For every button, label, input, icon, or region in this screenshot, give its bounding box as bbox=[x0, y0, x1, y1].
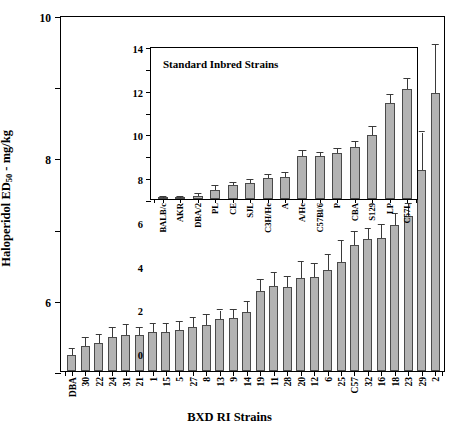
bar-group: C3H/He bbox=[263, 46, 273, 199]
error-bar bbox=[355, 142, 356, 147]
x-axis-tick bbox=[220, 371, 221, 376]
error-bar bbox=[179, 322, 180, 330]
bar-group: DBA/2 bbox=[193, 46, 203, 199]
bar bbox=[269, 286, 278, 371]
bar-group: P bbox=[332, 46, 342, 199]
error-bar-cap bbox=[404, 78, 411, 79]
error-bar bbox=[198, 194, 199, 195]
error-bar bbox=[337, 149, 338, 153]
error-bar bbox=[268, 175, 269, 178]
x-axis-tick-label: C57 bbox=[349, 377, 360, 394]
error-bar-cap bbox=[95, 334, 101, 335]
axis-tick: 2 bbox=[146, 179, 151, 180]
x-axis-tick bbox=[381, 371, 382, 376]
x-axis-tick-label: 15 bbox=[160, 377, 171, 387]
x-axis-tick-label: 32 bbox=[362, 377, 373, 387]
error-bar bbox=[193, 318, 194, 327]
x-axis-tick bbox=[163, 199, 164, 203]
x-axis-tick bbox=[112, 371, 113, 376]
error-bar-cap bbox=[419, 131, 425, 132]
bar bbox=[202, 325, 211, 371]
bar-group: A/He bbox=[297, 46, 307, 199]
x-axis-tick bbox=[250, 199, 251, 203]
x-axis-tick-label: AKR bbox=[175, 203, 185, 222]
error-bar bbox=[233, 310, 234, 318]
bar bbox=[94, 343, 103, 371]
x-axis-tick bbox=[407, 199, 408, 203]
axis-tick: 0 bbox=[146, 201, 151, 202]
bar-group: 22 bbox=[94, 15, 103, 371]
error-bar-cap bbox=[281, 172, 288, 173]
y-axis-title: Haloperidol ED50 - mg/kg bbox=[0, 130, 14, 267]
error-bar bbox=[85, 338, 86, 346]
error-bar-cap bbox=[68, 348, 74, 349]
error-bar bbox=[390, 95, 391, 103]
bar bbox=[385, 103, 395, 199]
x-axis-tick-label: 14 bbox=[241, 377, 252, 387]
x-axis-tick-label: A bbox=[280, 203, 290, 209]
axis-tick: 0 bbox=[55, 373, 61, 374]
x-axis-tick-label: P bbox=[332, 203, 342, 208]
error-bar bbox=[153, 324, 154, 332]
x-axis-tick-label: 31 bbox=[120, 377, 131, 387]
bar-group: CE bbox=[228, 46, 238, 199]
x-axis-tick-label: 24 bbox=[107, 377, 118, 387]
bar bbox=[310, 277, 319, 371]
bar bbox=[390, 225, 399, 371]
error-bar-cap bbox=[386, 94, 393, 95]
bar bbox=[404, 216, 413, 371]
x-axis-tick-label: DBA/2 bbox=[193, 203, 203, 228]
bar bbox=[367, 135, 377, 199]
error-bar-cap bbox=[432, 44, 438, 45]
error-bar bbox=[72, 349, 73, 355]
x-axis-tick bbox=[166, 371, 167, 376]
x-axis-tick-label: CBA bbox=[350, 203, 360, 221]
error-bar-cap bbox=[264, 174, 271, 175]
bar bbox=[81, 346, 90, 371]
error-bar bbox=[139, 328, 140, 336]
error-bar-cap bbox=[159, 196, 166, 197]
x-axis-tick-label: 21 bbox=[134, 377, 145, 387]
x-axis-tick-label: BALB/c bbox=[158, 203, 168, 233]
error-bar bbox=[302, 151, 303, 156]
axis-tick: 10 bbox=[146, 92, 151, 93]
bar bbox=[256, 291, 265, 371]
bar bbox=[377, 238, 386, 372]
bar bbox=[229, 318, 238, 371]
x-axis-tick-label: 5 bbox=[174, 377, 185, 382]
x-axis-tick bbox=[368, 371, 369, 376]
x-axis-tick-label: C57Bl/6 bbox=[315, 203, 325, 233]
bar bbox=[242, 312, 251, 371]
x-axis-tick-label: 2 bbox=[430, 377, 441, 382]
x-axis-tick bbox=[408, 371, 409, 376]
x-axis-tick bbox=[139, 371, 140, 376]
x-axis-tick-label: SJL bbox=[245, 203, 255, 218]
axis-tick: 4 bbox=[55, 231, 61, 232]
x-axis-tick-label: DBA bbox=[66, 377, 77, 397]
bar bbox=[337, 262, 346, 371]
x-axis-tick bbox=[126, 371, 127, 376]
bar bbox=[332, 153, 342, 199]
error-bar-cap bbox=[316, 152, 323, 153]
error-bar bbox=[215, 186, 216, 189]
error-bar-cap bbox=[230, 309, 236, 310]
x-axis-tick bbox=[301, 371, 302, 376]
x-axis-tick bbox=[328, 371, 329, 376]
error-bar bbox=[180, 197, 181, 198]
x-axis-tick-label: PL bbox=[210, 203, 220, 214]
x-axis-tick bbox=[154, 199, 155, 203]
axis-tick-label: 0 bbox=[138, 350, 143, 361]
x-axis-tick bbox=[320, 199, 321, 203]
error-bar bbox=[285, 173, 286, 176]
bar bbox=[350, 245, 359, 371]
bar-group: 31 bbox=[121, 15, 130, 371]
bar bbox=[363, 239, 372, 371]
error-bar-cap bbox=[176, 321, 182, 322]
axis-tick-label: 10 bbox=[40, 12, 52, 24]
axis-tick: 6 bbox=[146, 135, 151, 136]
bar-group: 21 bbox=[135, 15, 144, 371]
axis-tick-label: 14 bbox=[133, 44, 144, 55]
x-axis-tick bbox=[302, 199, 303, 203]
axis-tick: 6 bbox=[55, 159, 61, 160]
axis-tick: 8 bbox=[146, 114, 151, 115]
